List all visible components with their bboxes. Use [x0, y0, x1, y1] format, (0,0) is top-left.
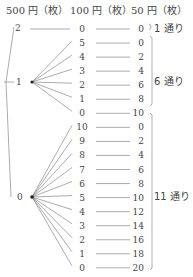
yen50-value: 8 [128, 178, 144, 190]
yen50-value: 6 [128, 79, 144, 91]
yen50-value: 10 [128, 192, 144, 204]
yen50-value: 8 [128, 93, 144, 105]
yen50-value: 16 [128, 234, 144, 246]
yen50-value: 4 [128, 65, 144, 77]
yen100-value: 4 [74, 206, 90, 218]
yen100-value: 9 [74, 135, 90, 147]
yen100-value: 8 [74, 149, 90, 161]
tree-lines [0, 0, 193, 277]
yen100-value: 0 [74, 262, 90, 274]
yen50-value: 4 [128, 149, 144, 161]
yen100-value: 6 [74, 178, 90, 190]
header-100yen: 100 円（枚） [70, 5, 132, 17]
yen50-value: 0 [128, 37, 144, 49]
count-label: 11 通り [154, 191, 190, 203]
count-label: 1 通り [154, 23, 184, 35]
yen100-value: 3 [74, 65, 90, 77]
yen100-value: 1 [74, 248, 90, 260]
yen50-value: 6 [128, 164, 144, 176]
yen500-value: 1 [16, 76, 22, 88]
yen100-value: 2 [74, 79, 90, 91]
yen50-value: 0 [128, 121, 144, 133]
yen50-value: 10 [128, 107, 144, 119]
yen50-value: 0 [128, 23, 144, 35]
yen100-value: 0 [74, 107, 90, 119]
yen100-value: 3 [74, 220, 90, 232]
count-label: 6 通り [154, 76, 184, 88]
yen50-value: 12 [128, 206, 144, 218]
header-500yen: 500 円（枚） [6, 5, 68, 17]
yen50-value: 20 [128, 262, 144, 274]
yen100-value: 0 [74, 23, 90, 35]
yen50-value: 2 [128, 51, 144, 63]
yen50-value: 14 [128, 220, 144, 232]
yen100-value: 2 [74, 234, 90, 246]
yen50-value: 2 [128, 135, 144, 147]
yen100-value: 5 [74, 37, 90, 49]
yen100-value: 1 [74, 93, 90, 105]
yen500-value: 2 [15, 22, 21, 34]
yen500-value: 0 [17, 191, 23, 203]
yen50-value: 18 [128, 248, 144, 260]
header-50yen: 50 円（枚） [131, 5, 187, 17]
yen100-value: 7 [74, 164, 90, 176]
yen100-value: 5 [74, 192, 90, 204]
yen100-value: 4 [74, 51, 90, 63]
yen100-value: 10 [74, 121, 90, 133]
